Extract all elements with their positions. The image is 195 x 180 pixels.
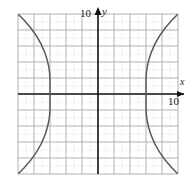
x-axis-tick-label-10: 10 [168,95,179,107]
x-axis-label: x [180,76,184,87]
y-axis-label: y [102,5,107,17]
y-axis-tick-label-10: 10 [80,7,91,19]
y-axis-arrowhead [95,7,102,15]
graph-canvas [0,0,195,180]
hyperbola-graph-figure: y x 10 10 [0,0,195,180]
axes [18,7,184,174]
